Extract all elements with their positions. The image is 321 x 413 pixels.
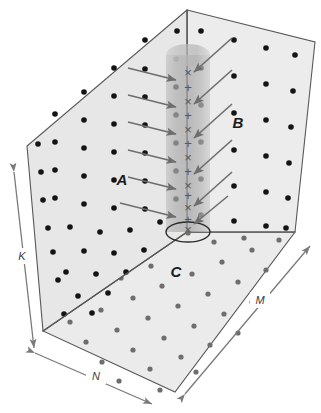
height-dimension: K (12, 172, 34, 348)
back-right-wall-label: B (233, 114, 244, 131)
column-symbol: × (184, 94, 192, 109)
scene-svg: C B (0, 0, 321, 413)
column-symbols: × + × + × + × + × + × + × (184, 65, 192, 237)
column-symbol: × (184, 122, 192, 137)
column-symbol: + (184, 164, 192, 179)
column-symbol: × (184, 65, 192, 80)
column-symbol: × (184, 222, 192, 237)
left-wall-label: A (116, 171, 128, 188)
column-symbol: + (184, 80, 192, 95)
width-dimension-label: M (255, 294, 265, 306)
column-symbol: × (184, 150, 192, 165)
column-symbol: + (184, 136, 192, 151)
height-dimension-label: K (18, 250, 26, 262)
floor-label: C (171, 263, 183, 280)
depth-dimension-label: N (92, 370, 100, 382)
column-symbol: + (184, 108, 192, 123)
figure-container: C B (0, 0, 321, 413)
